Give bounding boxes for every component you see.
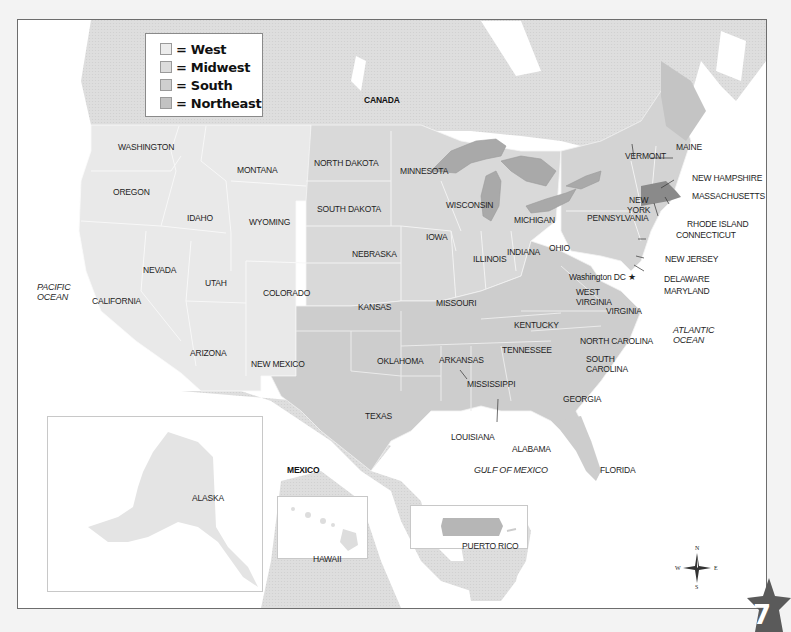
compass-rose: N S E W (675, 545, 719, 591)
label-north-dakota: NORTH DAKOTA (314, 158, 378, 168)
label-gulf-of-mexico: GULF OF MEXICO (474, 465, 548, 475)
label-rhode-island: RHODE ISLAND (687, 219, 748, 229)
label-mexico: MEXICO (287, 465, 319, 475)
label-utah: UTAH (205, 278, 227, 288)
label-nebraska: NEBRASKA (352, 249, 397, 259)
legend-swatch-south (160, 79, 172, 91)
label-capital-washington-dc: Washington DC ★ (569, 272, 636, 282)
compass-n: N (695, 545, 699, 551)
label-michigan: MICHIGAN (514, 215, 555, 225)
compass-e: E (714, 565, 718, 571)
label-pacific-ocean: PACIFICOCEAN (37, 282, 70, 302)
legend-item-northeast: = Northeast (160, 94, 262, 112)
hawaii-shape (278, 497, 367, 558)
label-oklahoma: OKLAHOMA (377, 356, 424, 366)
page-number: 7 (753, 600, 771, 630)
label-minnesota: MINNESOTA (400, 166, 448, 176)
hawaii-inset (277, 496, 368, 559)
label-vermont: VERMONT (625, 151, 666, 161)
alaska-inset (47, 416, 263, 592)
label-illinois: ILLINOIS (473, 254, 506, 264)
label-florida: FLORIDA (600, 465, 635, 475)
legend-item-west: = West (160, 40, 262, 58)
label-puerto-rico: PUERTO RICO (462, 541, 519, 551)
legend-item-midwest: = Midwest (160, 58, 262, 76)
label-alabama: ALABAMA (512, 444, 551, 454)
legend-swatch-midwest (160, 61, 172, 73)
label-south-dakota: SOUTH DAKOTA (317, 204, 381, 214)
label-texas: TEXAS (365, 411, 392, 421)
label-oregon: OREGON (113, 187, 150, 197)
map-frame: CANADA MEXICO PACIFICOCEAN ATLANTICOCEAN… (17, 19, 767, 609)
label-kentucky: KENTUCKY (514, 320, 559, 330)
label-alaska: ALASKA (192, 493, 224, 503)
capital-star-icon: ★ (628, 272, 636, 282)
label-louisiana: LOUISIANA (451, 432, 495, 442)
label-mississippi: MISSISSIPPI (467, 379, 515, 389)
label-washington: WASHINGTON (118, 142, 174, 152)
legend-item-south: = South (160, 76, 262, 94)
label-ohio: OHIO (549, 243, 570, 253)
label-montana: MONTANA (237, 165, 277, 175)
label-indiana: INDIANA (507, 247, 540, 257)
label-arizona: ARIZONA (190, 348, 226, 358)
label-iowa: IOWA (426, 232, 448, 242)
label-west-virginia: WESTVIRGINIA (576, 287, 612, 307)
label-new-mexico: NEW MEXICO (251, 359, 305, 369)
label-new-jersey: NEW JERSEY (665, 254, 718, 264)
label-delaware: DELAWARE (664, 274, 709, 284)
label-arkansas: ARKANSAS (439, 355, 484, 365)
compass-s: S (695, 584, 698, 590)
label-idaho: IDAHO (187, 213, 213, 223)
label-nevada: NEVADA (143, 265, 176, 275)
label-california: CALIFORNIA (92, 296, 141, 306)
legend-swatch-northeast (160, 97, 172, 109)
label-colorado: COLORADO (263, 288, 310, 298)
label-virginia: VIRGINIA (606, 306, 642, 316)
label-north-carolina: NORTH CAROLINA (580, 336, 653, 346)
label-wisconsin: WISCONSIN (446, 200, 493, 210)
label-atlantic-ocean: ATLANTICOCEAN (673, 325, 714, 345)
region-legend: = West = Midwest = South = Northeast (145, 33, 263, 117)
alaska-shape (48, 417, 262, 591)
label-kansas: KANSAS (358, 302, 391, 312)
label-tennessee: TENNESSEE (502, 345, 552, 355)
compass-w: W (675, 565, 681, 571)
label-connecticut: CONNECTICUT (676, 230, 736, 240)
label-maryland: MARYLAND (664, 286, 709, 296)
label-new-york: NEWYORK (627, 195, 650, 215)
label-south-carolina: SOUTHCAROLINA (586, 354, 628, 374)
label-missouri: MISSOURI (436, 298, 476, 308)
label-georgia: GEORGIA (563, 394, 601, 404)
label-canada: CANADA (364, 95, 400, 105)
label-massachusetts: MASSACHUSETTS (692, 191, 765, 201)
label-hawaii: HAWAII (313, 554, 341, 564)
label-maine: MAINE (676, 142, 702, 152)
legend-swatch-west (160, 43, 172, 55)
label-new-hampshire: NEW HAMPSHIRE (692, 173, 762, 183)
label-wyoming: WYOMING (249, 217, 290, 227)
